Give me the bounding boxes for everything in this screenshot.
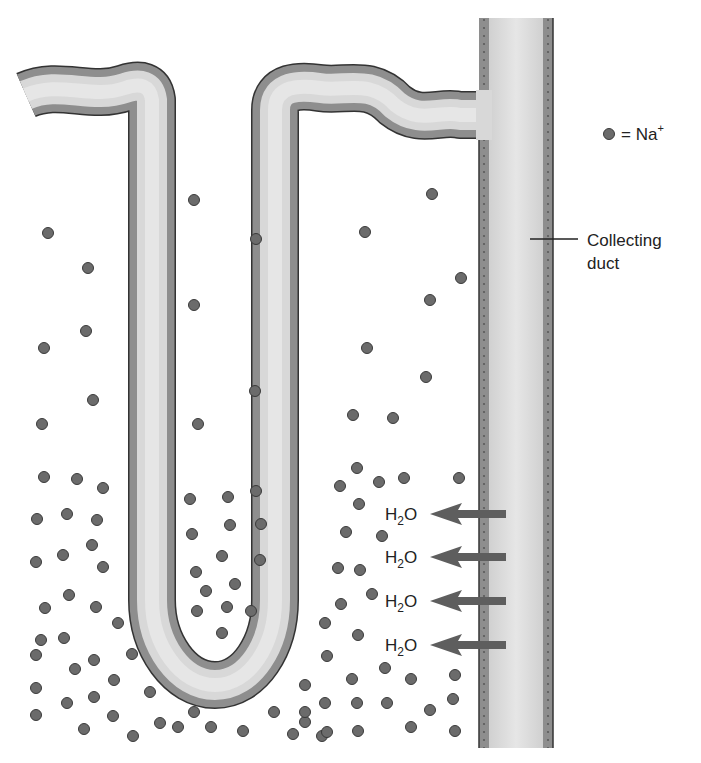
loop-of-henle-diagram: H2OH2OH2OH2O = Na+ Collecting duct — [0, 0, 701, 763]
sodium-ion-dot — [425, 295, 436, 306]
sodium-ion-dot — [155, 718, 166, 729]
sodium-ion-dot — [377, 531, 388, 542]
sodium-ion-dot — [81, 326, 92, 337]
sodium-ion-dot — [64, 590, 75, 601]
sodium-ion-dot — [250, 386, 261, 397]
sodium-ion-dot — [347, 674, 358, 685]
sodium-ion-dot — [89, 692, 100, 703]
sodium-ion-dot — [87, 540, 98, 551]
sodium-ion-dot — [189, 195, 200, 206]
sodium-ion-dot — [374, 477, 385, 488]
sodium-ion-dot — [70, 664, 81, 675]
sodium-ion-dot — [31, 650, 42, 661]
sodium-ion-dot — [367, 589, 378, 600]
sodium-ion-dot — [348, 410, 359, 421]
sodium-ion-dot — [256, 519, 267, 530]
duct-label-line1: Collecting — [587, 231, 662, 250]
sodium-ion-dot — [201, 586, 212, 597]
sodium-ion-dot — [448, 694, 459, 705]
sodium-ion-dot — [185, 494, 196, 505]
sodium-ion-dot — [91, 602, 102, 613]
sodium-ion-dot — [425, 705, 436, 716]
water-label: H2O — [385, 592, 417, 615]
sodium-ion-dot — [399, 473, 410, 484]
sodium-ion-dot — [58, 550, 69, 561]
sodium-ion-dot — [336, 599, 347, 610]
sodium-ion-dot — [322, 727, 333, 738]
sodium-ion-dot — [206, 722, 217, 733]
sodium-ion-dot — [31, 683, 42, 694]
sodium-ion-dot — [251, 234, 262, 245]
sodium-ion-dot — [98, 483, 109, 494]
sodium-ion-dot — [427, 189, 438, 200]
diagram-canvas: H2OH2OH2OH2O = Na+ Collecting duct — [0, 0, 701, 763]
water-label: H2O — [385, 548, 417, 571]
sodium-ion-dot — [127, 649, 138, 660]
sodium-ion-dot — [355, 565, 366, 576]
sodium-ion-dot — [450, 670, 461, 681]
duct-label-line2: duct — [587, 254, 619, 273]
sodium-ion-dot — [79, 724, 90, 735]
sodium-ion-dot — [59, 633, 70, 644]
sodium-ion-dot — [335, 481, 346, 492]
sodium-ion-dot — [352, 463, 363, 474]
sodium-ion-dot — [62, 698, 73, 709]
sodium-ion-dot — [353, 726, 364, 737]
sodium-ion-dot — [40, 603, 51, 614]
sodium-ion-dot — [251, 486, 262, 497]
sodium-ion-dot — [421, 372, 432, 383]
sodium-ion-dot — [246, 606, 257, 617]
sodium-ion-dot — [223, 492, 234, 503]
sodium-ion-dot — [113, 618, 124, 629]
sodium-ion-dot — [288, 729, 299, 740]
sodium-ion-dot — [39, 472, 50, 483]
sodium-ion-dot — [145, 687, 156, 698]
sodium-ion-dot — [456, 273, 467, 284]
sodium-ion-dot — [238, 726, 249, 737]
sodium-ion-dot — [37, 419, 48, 430]
sodium-ion-dot — [191, 567, 202, 578]
sodium-ion-dot — [108, 711, 119, 722]
sodium-ion-dot — [72, 474, 83, 485]
sodium-ion-dot — [31, 710, 42, 721]
sodium-ion-dot — [269, 707, 280, 718]
sodium-ion-dot — [189, 300, 200, 311]
sodium-ion-dot — [31, 557, 42, 568]
sodium-ion-dot — [193, 419, 204, 430]
sodium-ion-dot — [341, 527, 352, 538]
legend: = Na+ — [604, 122, 664, 144]
sodium-ion-dot — [32, 514, 43, 525]
sodium-ion-dot — [300, 717, 311, 728]
sodium-ion-dot — [320, 618, 331, 629]
sodium-ion-dot — [225, 520, 236, 531]
sodium-ion-dot — [360, 227, 371, 238]
sodium-ion-dot — [362, 343, 373, 354]
sodium-ion-dot — [88, 395, 99, 406]
legend-sodium-dot-icon — [604, 129, 615, 140]
sodium-ion-dot — [187, 529, 198, 540]
sodium-ion-dot — [36, 635, 47, 646]
sodium-ion-dot — [222, 602, 233, 613]
sodium-ion-dot — [230, 579, 241, 590]
sodium-ion-dot — [300, 680, 311, 691]
sodium-ion-dot — [353, 630, 364, 641]
sodium-ion-dot — [352, 698, 363, 709]
sodium-ion-dot — [333, 563, 344, 574]
sodium-ion-dot — [173, 722, 184, 733]
legend-label: = Na+ — [621, 122, 664, 144]
sodium-ion-dot — [450, 726, 461, 737]
sodium-ion-dot — [406, 722, 417, 733]
sodium-ion-dot — [92, 515, 103, 526]
sodium-ion-dot — [406, 674, 417, 685]
sodium-ion-dot — [128, 731, 139, 742]
sodium-ion-dot — [320, 698, 331, 709]
sodium-ion-dot — [382, 698, 393, 709]
sodium-ion-dot — [388, 413, 399, 424]
sodium-ion-dot — [43, 228, 54, 239]
sodium-ion-dot — [380, 663, 391, 674]
sodium-ion-dot — [98, 562, 109, 573]
sodium-ion-dot — [192, 606, 203, 617]
sodium-ion-dot — [354, 499, 365, 510]
sodium-ion-dot — [217, 628, 228, 639]
sodium-ion-dot — [255, 555, 266, 566]
